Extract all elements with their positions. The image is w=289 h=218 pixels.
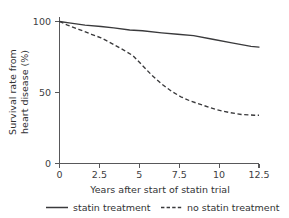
y-axis-title-line2: heart disease (%)	[19, 50, 30, 134]
y-tick-label-50: 50	[39, 87, 51, 98]
y-axis-title-line1: Survival rate from	[7, 49, 18, 135]
x-tick-label-2.5: 2.5	[92, 169, 107, 180]
series-line-statin-treatment	[60, 22, 260, 48]
x-tick-label-7.5: 7.5	[172, 169, 187, 180]
y-tick-label-100: 100	[33, 16, 51, 27]
y-tick-label-0: 0	[45, 158, 51, 169]
survival-rate-line-chart: 100 50 0 0 2.5 5 7.5 10 12.5 Years after…	[0, 0, 289, 218]
x-tick-label-12.5: 12.5	[248, 169, 269, 180]
legend-label-no-statin-treatment: no statin treatment	[187, 202, 280, 213]
series-line-no-statin-treatment	[60, 22, 260, 116]
chart-page: 100 50 0 0 2.5 5 7.5 10 12.5 Years after…	[0, 0, 289, 218]
x-tick-label-0: 0	[56, 169, 62, 180]
x-tick-label-5: 5	[136, 169, 142, 180]
x-axis-title: Years after start of statin trial	[89, 184, 230, 195]
legend-label-statin-treatment: statin treatment	[73, 202, 151, 213]
x-tick-label-10: 10	[213, 169, 225, 180]
